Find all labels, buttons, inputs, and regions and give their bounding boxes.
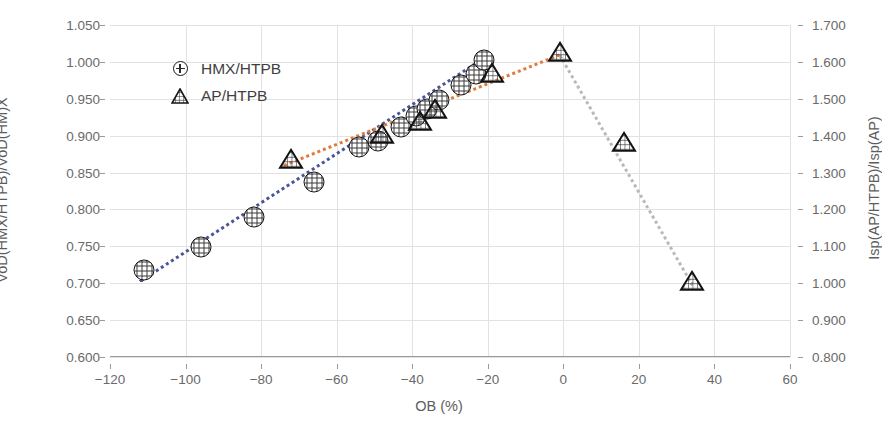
y-tick-mark-left — [100, 25, 105, 26]
y-tick-mark-right — [798, 320, 803, 321]
y-tick-label-right: 1.700 — [812, 18, 846, 33]
y-tick-label-right: 1.300 — [812, 165, 846, 180]
y-tick-label-left: 0.900 — [66, 128, 100, 143]
x-tick-mark — [488, 364, 489, 369]
y-tick-label-left: 0.650 — [66, 313, 100, 328]
legend-label-ap-htpb: AP/HTPB — [201, 87, 267, 105]
chart-legend: HMX/HTPB AP/HTPB — [168, 55, 281, 109]
data-point-ap-htpb — [679, 270, 705, 292]
y-axis-left-ticks: 0.6000.6500.7000.7500.8000.8500.9000.950… — [0, 25, 100, 357]
y-tick-label-right: 0.900 — [812, 313, 846, 328]
x-tick-mark — [186, 364, 187, 369]
x-axis-title: OB (%) — [415, 398, 463, 414]
x-tick-label: −80 — [250, 372, 273, 387]
data-point-ap-htpb — [369, 122, 395, 144]
y-tick-label-left: 0.950 — [66, 91, 100, 106]
gridline-vertical — [563, 25, 564, 357]
x-tick-mark — [790, 364, 791, 369]
data-point-ap-htpb — [611, 131, 637, 153]
legend-label-hmx-htpb: HMX/HTPB — [201, 60, 281, 78]
y-axis-right-title: Isp(AP/HTPB)/Isp(AP) — [866, 116, 882, 259]
y-tick-mark-right — [798, 25, 803, 26]
gridline-horizontal — [110, 246, 790, 247]
y-axis-right-ticks: 0.8000.9001.0001.1001.2001.3001.4001.500… — [798, 25, 874, 357]
x-tick-mark — [110, 364, 111, 369]
y-tick-label-left: 0.700 — [66, 276, 100, 291]
y-tick-mark-right — [798, 62, 803, 63]
y-tick-label-right: 1.400 — [812, 128, 846, 143]
y-tick-mark-left — [100, 283, 105, 284]
y-tick-label-right: 1.600 — [812, 54, 846, 69]
legend-item-hmx-htpb: HMX/HTPB — [168, 55, 281, 82]
x-tick-mark — [714, 364, 715, 369]
y-tick-label-right: 1.200 — [812, 202, 846, 217]
y-tick-label-left: 1.050 — [66, 18, 100, 33]
gridline-horizontal — [110, 357, 790, 358]
x-tick-label: −40 — [401, 372, 424, 387]
legend-item-ap-htpb: AP/HTPB — [168, 82, 281, 109]
data-point-hmx-htpb — [190, 237, 211, 258]
y-tick-mark-left — [100, 99, 105, 100]
trendline-ap-trend-fall — [558, 55, 693, 286]
y-tick-mark-right — [798, 99, 803, 100]
gridline-horizontal — [110, 173, 790, 174]
x-tick-label: −120 — [95, 372, 125, 387]
y-tick-mark-right — [798, 357, 803, 358]
x-tick-mark — [412, 364, 413, 369]
y-tick-label-right: 1.500 — [812, 91, 846, 106]
y-tick-label-right: 1.100 — [812, 239, 846, 254]
y-tick-mark-right — [798, 209, 803, 210]
data-point-hmx-htpb — [349, 137, 370, 158]
gridline-horizontal — [110, 320, 790, 321]
x-tick-label: −60 — [325, 372, 348, 387]
y-tick-mark-left — [100, 209, 105, 210]
x-tick-label: −100 — [170, 372, 200, 387]
data-point-ap-htpb — [422, 98, 448, 120]
y-tick-mark-right — [798, 283, 803, 284]
x-tick-label: 20 — [631, 372, 646, 387]
y-tick-mark-right — [798, 136, 803, 137]
data-point-hmx-htpb — [243, 206, 264, 227]
gridline-vertical — [412, 25, 413, 357]
gridline-vertical — [337, 25, 338, 357]
x-tick-mark — [639, 364, 640, 369]
y-tick-label-left: 0.600 — [66, 350, 100, 365]
x-tick-label: 0 — [560, 372, 568, 387]
y-tick-label-right: 0.800 — [812, 350, 846, 365]
y-tick-mark-right — [798, 246, 803, 247]
x-tick-label: 40 — [707, 372, 722, 387]
y-tick-mark-left — [100, 246, 105, 247]
y-tick-mark-right — [798, 173, 803, 174]
y-tick-label-left: 0.750 — [66, 239, 100, 254]
circle-crosshatch-icon — [168, 61, 192, 76]
gridline-horizontal — [110, 136, 790, 137]
gridline-horizontal — [110, 25, 790, 26]
gridline-vertical — [714, 25, 715, 357]
data-point-ap-htpb — [479, 62, 505, 84]
gridline-vertical — [790, 25, 791, 357]
y-tick-mark-left — [100, 136, 105, 137]
x-tick-mark — [563, 364, 564, 369]
x-tick-mark — [337, 364, 338, 369]
y-tick-mark-left — [100, 357, 105, 358]
gridline-horizontal — [110, 209, 790, 210]
x-axis-line — [110, 356, 790, 357]
x-tick-label: −20 — [476, 372, 499, 387]
y-tick-mark-left — [100, 173, 105, 174]
y-tick-label-left: 0.850 — [66, 165, 100, 180]
x-tick-mark — [261, 364, 262, 369]
triangle-crosshatch-icon — [168, 88, 192, 104]
data-point-hmx-htpb — [304, 172, 325, 193]
data-point-hmx-htpb — [134, 259, 155, 280]
data-point-ap-htpb — [547, 41, 573, 63]
x-axis-ticks: −120−100−80−60−40−200204060 — [110, 364, 790, 384]
data-point-ap-htpb — [278, 148, 304, 170]
y-axis-left-title: VoD(HMX/HTPB)/VoD(HM)X — [0, 97, 10, 282]
y-tick-mark-left — [100, 320, 105, 321]
y-tick-mark-left — [100, 62, 105, 63]
y-tick-label-left: 1.000 — [66, 54, 100, 69]
y-tick-label-left: 0.800 — [66, 202, 100, 217]
x-tick-label: 60 — [782, 372, 797, 387]
y-tick-label-right: 1.000 — [812, 276, 846, 291]
